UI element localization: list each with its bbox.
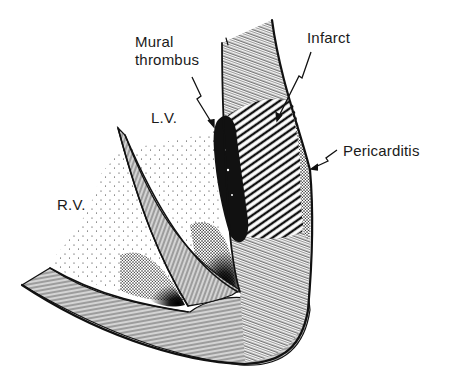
rv-label: R.V. — [57, 196, 86, 214]
mural-thrombus-label: Mural thrombus — [135, 33, 199, 69]
pericarditis-label: Pericarditis — [343, 142, 420, 160]
lv-label: L.V. — [151, 109, 177, 127]
infarct-label: Infarct — [307, 29, 350, 47]
mural-thrombus-pointer — [192, 77, 214, 127]
heart-cross-section-diagram — [0, 0, 449, 386]
pericarditis-pointer — [311, 150, 337, 170]
